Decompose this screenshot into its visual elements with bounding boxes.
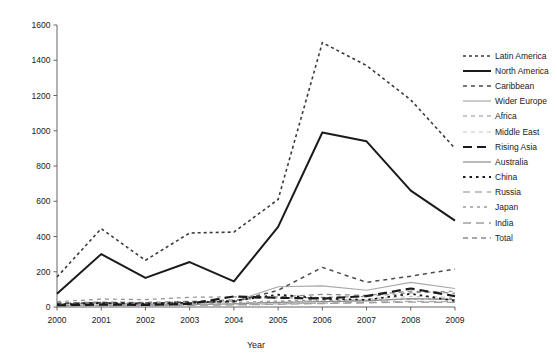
series-line (57, 43, 455, 277)
legend-item[interactable]: Africa (462, 109, 557, 124)
legend-item[interactable]: Latin America (462, 48, 557, 63)
x-axis-tick-label: 2005 (269, 315, 288, 325)
legend-line-swatch (462, 65, 492, 77)
chart-legend: Latin AmericaNorth AmericaCaribbeanWider… (462, 48, 557, 245)
y-axis-tick-label: 800 (36, 161, 50, 171)
x-axis-tick-label: 2002 (136, 315, 155, 325)
legend-item[interactable]: Rising Asia (462, 139, 557, 154)
y-axis-tick-label: 400 (36, 232, 50, 242)
series-line (57, 133, 455, 294)
legend-item-label: Russia (492, 187, 521, 197)
chart-figure: 0200400600800100012001400160020002001200… (0, 0, 557, 357)
legend-item-label: India (492, 218, 513, 228)
y-axis-tick-label: 1400 (32, 55, 51, 65)
legend-item-label: Australia (492, 157, 528, 167)
legend-item[interactable]: Russia (462, 185, 557, 200)
x-axis-tick-label: 2003 (180, 315, 199, 325)
legend-line-swatch (462, 186, 492, 198)
legend-line-swatch (462, 126, 492, 138)
legend-line-swatch (462, 201, 492, 213)
legend-item[interactable]: Wider Europe (462, 94, 557, 109)
legend-item-label: Wider Europe (492, 96, 547, 106)
legend-item-label: Rising Asia (492, 142, 537, 152)
legend-item[interactable]: Middle East (462, 124, 557, 139)
legend-line-swatch (462, 232, 492, 244)
legend-line-swatch (462, 50, 492, 62)
legend-item-label: Africa (492, 111, 517, 121)
x-axis-tick-label: 2009 (446, 315, 465, 325)
x-axis-tick-label: 2001 (92, 315, 111, 325)
legend-line-swatch (462, 80, 492, 92)
legend-item-label: Latin America (492, 51, 547, 61)
x-axis-tick-label: 2000 (48, 315, 67, 325)
legend-item[interactable]: Japan (462, 200, 557, 215)
legend-item[interactable]: India (462, 215, 557, 230)
x-axis-tick-label: 2007 (357, 315, 376, 325)
y-axis-tick-label: 600 (36, 196, 50, 206)
legend-item-label: Japan (492, 202, 518, 212)
legend-item[interactable]: Total (462, 230, 557, 245)
x-axis-tick-label: 2004 (224, 315, 243, 325)
legend-item-label: Caribbean (492, 81, 534, 91)
y-axis-tick-label: 0 (46, 302, 51, 312)
x-axis-title: Year (247, 340, 265, 350)
y-axis-tick-label: 1000 (32, 126, 51, 136)
legend-line-swatch (462, 95, 492, 107)
legend-item[interactable]: Caribbean (462, 78, 557, 93)
legend-item-label: Middle East (492, 127, 539, 137)
x-axis-tick-label: 2006 (313, 315, 332, 325)
legend-item[interactable]: China (462, 170, 557, 185)
y-axis-tick-label: 1200 (32, 91, 51, 101)
legend-item-label: North America (492, 66, 549, 76)
legend-item-label: Total (492, 233, 513, 243)
legend-item[interactable]: Australia (462, 154, 557, 169)
legend-line-swatch (462, 141, 492, 153)
y-axis-tick-label: 1600 (32, 20, 51, 30)
y-axis-tick-label: 200 (36, 267, 50, 277)
x-axis-tick-label: 2008 (401, 315, 420, 325)
series-line (57, 282, 455, 304)
legend-line-swatch (462, 171, 492, 183)
legend-line-swatch (462, 110, 492, 122)
legend-line-swatch (462, 156, 492, 168)
legend-line-swatch (462, 217, 492, 229)
legend-item-label: China (492, 172, 517, 182)
legend-item[interactable]: North America (462, 63, 557, 78)
